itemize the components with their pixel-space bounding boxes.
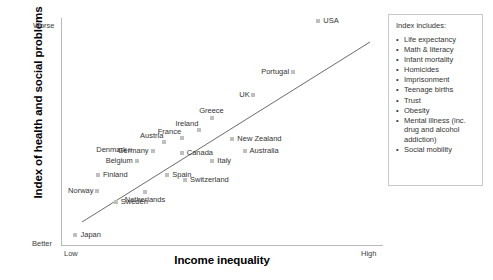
legend-title: Index includes: bbox=[396, 21, 477, 30]
data-point-label: Spain bbox=[172, 171, 191, 179]
legend-item: Trust bbox=[396, 96, 477, 106]
legend-item: Social mobility bbox=[396, 145, 477, 155]
legend-item: Life expectancy bbox=[396, 35, 477, 45]
data-point bbox=[291, 70, 295, 74]
legend-item: Infant mortality bbox=[396, 55, 477, 65]
data-point bbox=[230, 137, 234, 141]
data-point bbox=[162, 140, 166, 144]
data-point-label: Australia bbox=[250, 147, 279, 155]
data-point bbox=[210, 116, 214, 120]
data-point-label: Germany bbox=[118, 147, 149, 155]
data-point bbox=[180, 136, 184, 140]
data-point bbox=[114, 200, 118, 204]
data-point bbox=[251, 93, 255, 97]
scatter-chart: Index of health and social problems Inco… bbox=[0, 0, 493, 280]
data-point bbox=[180, 151, 184, 155]
legend-item: Teenage births bbox=[396, 85, 477, 95]
data-point bbox=[143, 190, 147, 194]
data-point-label: Japan bbox=[80, 231, 100, 239]
legend-item: Homicides bbox=[396, 65, 477, 75]
data-point bbox=[151, 149, 155, 153]
data-point bbox=[243, 149, 247, 153]
data-point bbox=[197, 128, 201, 132]
data-point-label: France bbox=[158, 128, 181, 136]
data-point-label: Switzerland bbox=[190, 176, 229, 184]
data-point bbox=[95, 189, 99, 193]
data-point-label: Belgium bbox=[106, 157, 133, 165]
data-point bbox=[73, 233, 77, 237]
data-point-label: USA bbox=[323, 17, 338, 25]
data-point-label: Ireland bbox=[175, 120, 198, 128]
data-point-label: Italy bbox=[217, 157, 231, 165]
data-point bbox=[165, 173, 169, 177]
data-point-label: Canada bbox=[187, 149, 213, 157]
legend-item: Obesity bbox=[396, 106, 477, 116]
data-point bbox=[316, 19, 320, 23]
legend-list: Life expectancyMath & literacyInfant mor… bbox=[396, 35, 477, 155]
data-point-label: Norway bbox=[68, 187, 93, 195]
data-point-label: UK bbox=[239, 91, 249, 99]
legend-item: Imprisonment bbox=[396, 75, 477, 85]
data-point bbox=[135, 159, 139, 163]
data-point bbox=[183, 178, 187, 182]
data-point-label: Netherlands bbox=[125, 196, 165, 204]
data-point-label: Portugal bbox=[261, 68, 289, 76]
data-point-label: Finland bbox=[103, 171, 128, 179]
data-point-label: New Zealand bbox=[237, 135, 281, 143]
data-point bbox=[96, 173, 100, 177]
legend-item: Mental illness (inc. drug and alcohol ad… bbox=[396, 116, 477, 145]
legend-item: Math & literacy bbox=[396, 45, 477, 55]
legend-box: Index includes: Life expectancyMath & li… bbox=[388, 14, 483, 186]
data-point bbox=[210, 159, 214, 163]
data-point-label: Greece bbox=[199, 107, 224, 115]
